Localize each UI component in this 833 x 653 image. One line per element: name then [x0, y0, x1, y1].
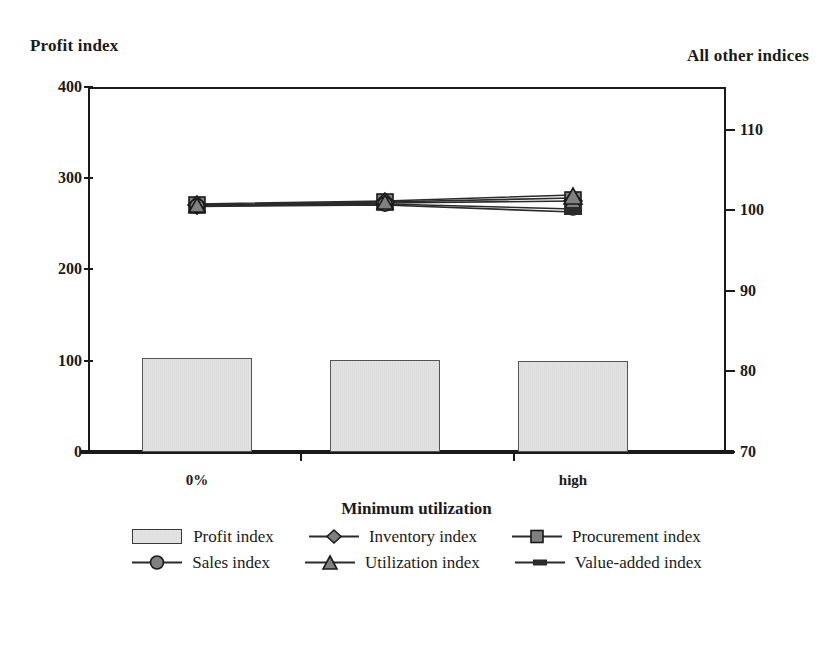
- right-axis-tick-100: 100: [740, 201, 810, 219]
- bar-swatch-icon: [132, 528, 184, 545]
- legend-label: Procurement index: [572, 528, 701, 545]
- tick-mark-icon: [726, 129, 735, 131]
- left-tick-label: 200: [58, 260, 82, 277]
- tick-mark-icon: [84, 268, 93, 270]
- right-axis-tick-80: 80: [740, 362, 810, 380]
- legend-item-procurement-index[interactable]: Procurement index: [511, 528, 701, 545]
- right-tick-label: 80: [740, 362, 756, 379]
- x-axis-label-0pct: 0%: [186, 472, 209, 489]
- legend-label: Inventory index: [369, 528, 477, 545]
- left-axis-tick-400: 400: [0, 78, 82, 96]
- legend-item-value-added-index[interactable]: Value-added index: [514, 554, 702, 571]
- diamond-marker-icon: [308, 528, 360, 545]
- right-axis-tick-90: 90: [740, 282, 810, 300]
- right-tick-label: 90: [740, 282, 756, 299]
- x-axis-tick-mark-1: [300, 452, 302, 461]
- legend-label: Sales index: [192, 554, 270, 571]
- legend-row-2: Sales index Utilization index Value-adde…: [0, 554, 833, 571]
- square-marker-icon: [511, 528, 563, 545]
- right-tick-label: 100: [740, 201, 764, 218]
- chart-canvas: Profit index All other indices 400 300 2…: [0, 0, 833, 653]
- right-axis-tick-70: 70: [740, 443, 810, 461]
- left-tick-label: 300: [58, 169, 82, 186]
- left-axis-tick-0: 0: [0, 443, 82, 461]
- bar-profit-index-0pct: [142, 358, 252, 452]
- left-axis-tick-300: 300: [0, 169, 82, 187]
- legend-row-1: Profit index Inventory index Procurement…: [0, 528, 833, 545]
- x-axis-label-high: high: [559, 472, 587, 489]
- tick-mark-icon: [726, 290, 735, 292]
- left-tick-label: 0: [74, 443, 82, 460]
- circle-marker-icon: [131, 554, 183, 571]
- left-tick-label: 100: [58, 352, 82, 369]
- tick-mark-icon: [84, 451, 93, 453]
- tick-mark-icon: [84, 86, 93, 88]
- legend-item-utilization-index[interactable]: Utilization index: [304, 554, 480, 571]
- left-axis-title: Profit index: [30, 36, 119, 56]
- bar-profit-index-mid: [330, 360, 440, 452]
- tick-mark-icon: [726, 209, 735, 211]
- legend-label: Profit index: [193, 528, 274, 545]
- chart-legend: Profit index Inventory index Procurement…: [0, 528, 833, 580]
- legend-item-inventory-index[interactable]: Inventory index: [308, 528, 477, 545]
- legend-item-sales-index[interactable]: Sales index: [131, 554, 270, 571]
- tick-mark-icon: [726, 451, 735, 453]
- triangle-marker-icon: [304, 554, 356, 571]
- x-axis-tick-mark-2: [513, 452, 515, 461]
- legend-label: Utilization index: [365, 554, 480, 571]
- left-axis-tick-100: 100: [0, 352, 82, 370]
- right-tick-label: 110: [740, 121, 763, 138]
- x-axis-title: Minimum utilization: [0, 499, 833, 519]
- legend-item-profit-index[interactable]: Profit index: [132, 528, 274, 545]
- right-tick-label: 70: [740, 443, 756, 460]
- right-axis-title: All other indices: [687, 46, 809, 66]
- tick-mark-icon: [84, 177, 93, 179]
- left-tick-label: 400: [58, 78, 82, 95]
- tick-mark-icon: [726, 370, 735, 372]
- tick-mark-icon: [84, 360, 93, 362]
- plain-line-icon: [514, 554, 566, 571]
- right-axis-tick-110: 110: [740, 121, 810, 139]
- left-axis-tick-200: 200: [0, 260, 82, 278]
- legend-label: Value-added index: [575, 554, 702, 571]
- bar-profit-index-high: [518, 361, 628, 452]
